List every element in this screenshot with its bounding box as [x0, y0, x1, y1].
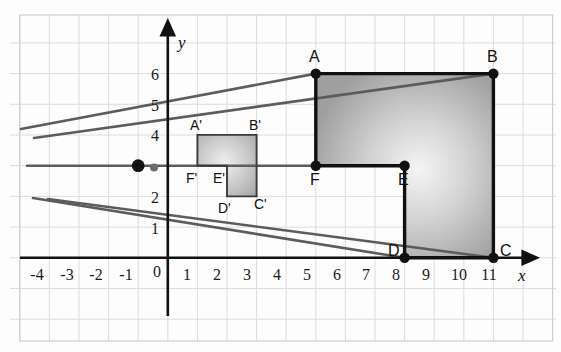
x-tick--4: -4	[30, 266, 43, 283]
x-tick--2: -2	[89, 266, 102, 283]
vertex-dot-C	[488, 253, 498, 263]
center-secondary-dot	[150, 164, 158, 172]
x-tick-11: 11	[481, 266, 496, 283]
center-of-dilation-dot	[132, 159, 145, 172]
x-tick-7: 7	[362, 266, 370, 283]
label-B-prime: B'	[249, 117, 261, 133]
label-F: F	[310, 171, 320, 188]
vertex-dot-A	[311, 68, 321, 78]
x-tick-0: 0	[153, 263, 161, 280]
x-tick-5: 5	[303, 266, 311, 283]
x-tick--3: -3	[60, 266, 73, 283]
x-tick-10: 10	[451, 266, 467, 283]
vertex-dot-B	[488, 68, 498, 78]
vertex-dot-F	[311, 161, 321, 171]
y-axis-name: y	[176, 33, 186, 52]
vertex-dot-D	[399, 253, 409, 263]
label-C: C	[500, 242, 512, 259]
x-tick-9: 9	[422, 266, 430, 283]
label-C-prime: C'	[254, 196, 267, 212]
label-A-prime: A'	[190, 117, 202, 133]
x-tick-3: 3	[243, 266, 251, 283]
x-tick--1: -1	[119, 266, 132, 283]
y-tick-1: 1	[151, 220, 159, 237]
dilation-diagram-svg: -4 -3 -2 -1 0 1 2 3 4 5 6 7 8 9 10 11 6 …	[0, 0, 561, 352]
label-E: E	[398, 171, 409, 188]
y-tick-2: 2	[151, 189, 159, 206]
x-tick-1: 1	[183, 266, 191, 283]
x-tick-2: 2	[213, 266, 221, 283]
y-tick-4: 4	[151, 127, 159, 144]
label-B: B	[487, 48, 498, 65]
label-F-prime: F'	[186, 170, 197, 186]
y-tick-5: 5	[151, 97, 159, 114]
label-E-prime: E'	[213, 170, 225, 186]
x-axis-name: x	[517, 266, 526, 285]
label-D: D	[388, 242, 400, 259]
x-tick-6: 6	[333, 266, 341, 283]
label-D-prime: D'	[218, 200, 231, 216]
label-A: A	[309, 48, 320, 65]
y-tick-6: 6	[151, 66, 159, 83]
x-tick-4: 4	[273, 266, 281, 283]
coordinate-plane-figure: -4 -3 -2 -1 0 1 2 3 4 5 6 7 8 9 10 11 6 …	[0, 0, 561, 352]
vertex-dot-E	[399, 161, 409, 171]
x-tick-8: 8	[392, 266, 400, 283]
